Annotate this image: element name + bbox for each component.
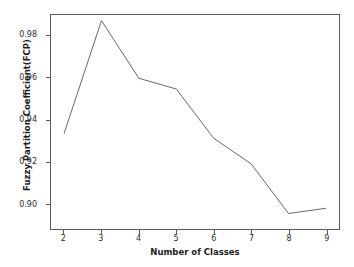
x-tick-label: 2 [53,234,73,243]
plot-area [50,14,340,230]
x-tick-label: 8 [279,234,299,243]
x-tick-mark [289,230,290,234]
x-tick-mark [214,230,215,234]
x-tick-mark [139,230,140,234]
y-tick-label: 0.94 [19,115,37,124]
x-tick-mark [63,230,64,234]
y-tick-label: 0.98 [19,30,37,39]
x-tick-mark [176,230,177,234]
y-tick-label: 0.90 [19,200,37,209]
y-tick-label-group: 0.980.960.940.920.90 [0,0,46,267]
y-tick-label: 0.92 [19,157,37,166]
x-tick-label: 3 [91,234,111,243]
data-line-svg [51,15,339,229]
x-tick-label: 7 [241,234,261,243]
x-tick-label: 6 [204,234,224,243]
x-tick-mark [101,230,102,234]
y-tick-label: 0.96 [19,73,37,82]
x-tick-mark [251,230,252,234]
fpc-data-line [64,21,326,214]
x-tick-mark [327,230,328,234]
x-axis-label: Number of Classes [50,247,340,257]
x-tick-label: 9 [317,234,337,243]
x-tick-label: 4 [129,234,149,243]
chart-figure: Fuzzy Partition Coefficient(FCP) 0.980.9… [0,0,354,267]
x-tick-label: 5 [166,234,186,243]
